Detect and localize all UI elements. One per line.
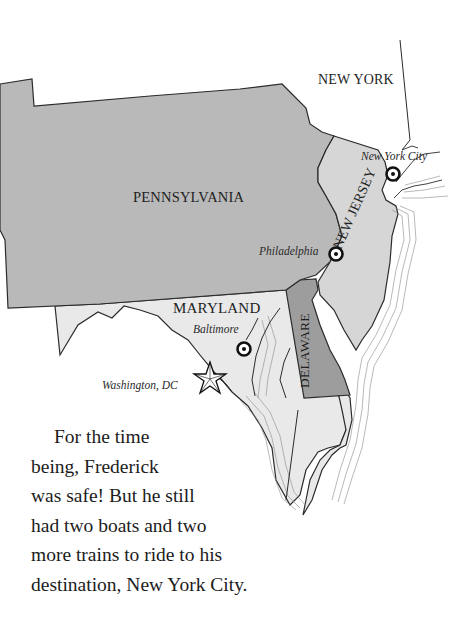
new-york-city-label: New York City [361, 150, 427, 162]
story-line: being, Frederick [31, 452, 291, 482]
story-line: had two boats and two [31, 511, 291, 541]
maryland-label: MARYLAND [173, 300, 260, 317]
nyc-marker [387, 168, 400, 181]
philadelphia-label: Philadelphia [259, 245, 318, 257]
baltimore-marker [238, 343, 251, 356]
new-york-border [400, 40, 410, 150]
baltimore-label: Baltimore [193, 323, 239, 335]
story-line: more trains to ride to his [31, 540, 291, 570]
story-paragraph: For the time being, Frederick was safe! … [31, 422, 291, 599]
story-line: For the time [31, 422, 291, 452]
story-line: destination, New York City. [31, 570, 291, 600]
story-line: was safe! But he still [31, 481, 291, 511]
new-york-label: NEW YORK [318, 72, 394, 88]
delaware-label: DELAWARE [297, 313, 313, 388]
washington-dc-label: Washington, DC [102, 379, 178, 391]
pennsylvania-label: PENNSYLVANIA [133, 189, 244, 206]
